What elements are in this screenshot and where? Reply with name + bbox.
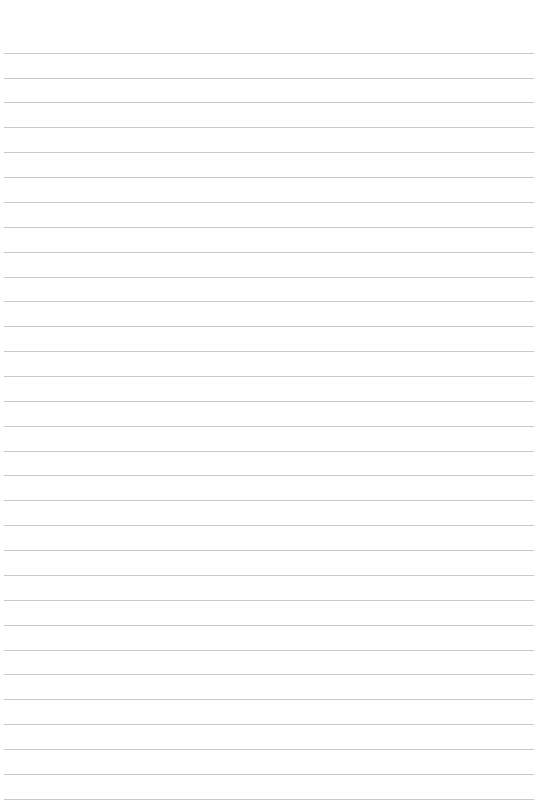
ruled-line	[4, 774, 534, 775]
ruled-line	[4, 326, 534, 327]
ruled-line	[4, 401, 534, 402]
ruled-line	[4, 277, 534, 278]
ruled-line	[4, 575, 534, 576]
ruled-line	[4, 625, 534, 626]
ruled-line	[4, 799, 534, 800]
ruled-line	[4, 202, 534, 203]
ruled-line	[4, 252, 534, 253]
ruled-line	[4, 102, 534, 103]
ruled-line	[4, 351, 534, 352]
ruled-line	[4, 426, 534, 427]
ruled-line	[4, 227, 534, 228]
ruled-line	[4, 724, 534, 725]
ruled-line	[4, 475, 534, 476]
ruled-line	[4, 550, 534, 551]
ruled-line	[4, 152, 534, 153]
ruled-line	[4, 749, 534, 750]
ruled-line	[4, 177, 534, 178]
ruled-line	[4, 525, 534, 526]
ruled-line	[4, 650, 534, 651]
ruled-line	[4, 376, 534, 377]
ruled-line	[4, 699, 534, 700]
ruled-line	[4, 500, 534, 501]
ruled-line	[4, 600, 534, 601]
ruled-line	[4, 78, 534, 79]
ruled-line	[4, 674, 534, 675]
ruled-line	[4, 127, 534, 128]
ruled-line	[4, 301, 534, 302]
ruled-line	[4, 53, 534, 54]
ruled-line	[4, 451, 534, 452]
lined-paper-page	[0, 0, 536, 805]
